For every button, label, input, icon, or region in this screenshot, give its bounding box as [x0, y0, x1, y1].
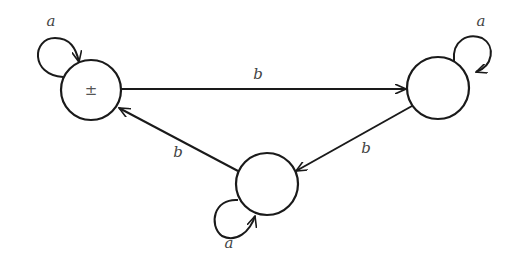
transition-label: b [253, 65, 263, 83]
transition-s0-s1: b [121, 65, 406, 89]
transition-s1-s2: b [296, 106, 412, 171]
transition-label: a [477, 12, 486, 30]
transition-label: a [225, 234, 234, 252]
transition-s2-s0: b [119, 108, 238, 171]
state-s2 [236, 153, 298, 215]
state-s0: ± [61, 60, 121, 120]
transition-label: b [173, 143, 183, 161]
transition-label: a [47, 12, 56, 30]
state-s0-label: ± [85, 81, 98, 99]
transition-s1-s1: a [454, 12, 491, 72]
automaton-diagram: ± a b a b a b [0, 0, 518, 264]
transition-label: b [361, 139, 371, 157]
transition-s2-s2: a [215, 200, 255, 252]
state-s1 [407, 57, 469, 119]
